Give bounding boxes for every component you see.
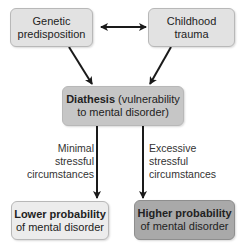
edge-label-excessive: Excessive stressful circumstances [149, 142, 216, 181]
trauma-to-diathesis-arrow [150, 47, 171, 84]
node-text-line2: predisposition [18, 28, 86, 41]
node-text-line1: Diathesis (vulnerability [66, 93, 180, 106]
node-bold-term: Lower probability [14, 208, 106, 221]
edge-label-minimal: Minimal stressful circumstances [27, 142, 94, 181]
node-text-line2: of mental disorder [16, 221, 104, 234]
node-text-line2: trauma [174, 28, 208, 41]
node-lower-probability: Lower probability of mental disorder [11, 201, 109, 240]
label-line: stressful [149, 155, 216, 168]
node-text-line1: Genetic [33, 15, 71, 28]
node-bold-term: Higher probability [137, 207, 231, 220]
genetic-to-diathesis-arrow [69, 47, 92, 84]
node-bold-term: Diathesis [66, 93, 115, 105]
label-line: circumstances [27, 168, 94, 181]
label-line: stressful [27, 155, 94, 168]
label-line: Minimal [27, 142, 94, 155]
node-genetic-predisposition: Genetic predisposition [10, 8, 93, 47]
node-higher-probability: Higher probability of mental disorder [134, 200, 235, 240]
node-diathesis: Diathesis (vulnerability to mental disor… [62, 86, 184, 126]
node-text-rest: (vulnerability [115, 93, 180, 105]
node-text-line2: to mental disorder) [77, 106, 169, 119]
node-text-line2: of mental disorder [140, 220, 228, 233]
label-line: circumstances [149, 168, 216, 181]
node-text-line1: Childhood [167, 15, 217, 28]
label-line: Excessive [149, 142, 216, 155]
node-childhood-trauma: Childhood trauma [148, 8, 235, 47]
